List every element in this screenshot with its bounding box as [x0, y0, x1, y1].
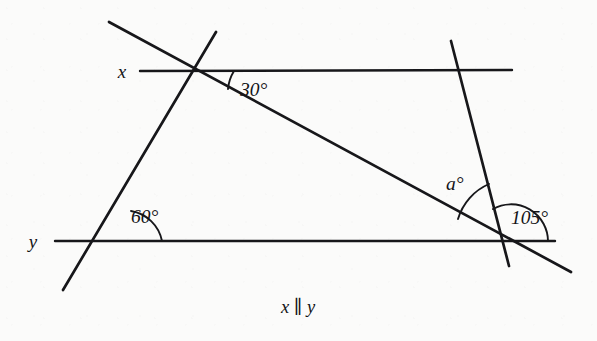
geometry-diagram-canvas: x y 30° 60° a° 105° x ∥ y — [0, 0, 597, 341]
angle-a-label: a° — [446, 173, 464, 194]
line-y-label: y — [27, 231, 38, 252]
angle-arc-30 — [228, 71, 234, 89]
angle-60-label: 60° — [131, 206, 159, 227]
line-x-label: x — [117, 61, 127, 82]
parallel-caption: x ∥ y — [280, 297, 316, 317]
angle-105-label: 105° — [511, 207, 548, 228]
geometry-svg: x y 30° 60° a° 105° x ∥ y — [0, 0, 597, 341]
right-transversal-line — [451, 41, 509, 266]
angle-30-label: 30° — [239, 79, 268, 100]
